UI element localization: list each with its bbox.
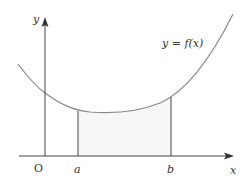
curve-f-of-x <box>18 14 233 113</box>
origin-label: O <box>34 163 43 174</box>
curve-label: y = f(x) <box>162 38 203 49</box>
area-under-curve-diagram: y y = f(x) O a b x <box>0 0 247 180</box>
b-label: b <box>167 164 174 175</box>
shaded-region <box>78 97 171 156</box>
diagram-canvas <box>0 0 247 180</box>
x-axis-label: x <box>230 165 236 176</box>
a-label: a <box>74 164 81 175</box>
y-axis-label: y <box>33 14 39 25</box>
